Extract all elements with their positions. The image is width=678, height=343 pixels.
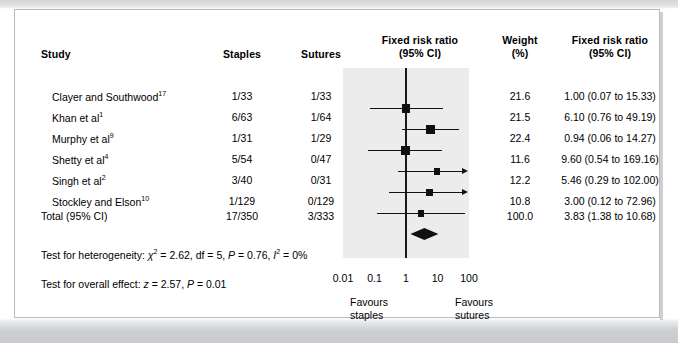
row-study-name: Clayer and Southwood17 [52,90,166,103]
row-weight: 22.4 [494,132,546,144]
row-study-name: Stockley and Elson10 [52,195,149,208]
row-sutures: 1/33 [290,90,352,102]
row-sutures: 0/31 [290,174,352,186]
row-risk-ratio: 5.46 (0.29 to 102.00) [551,174,669,186]
total-label: Total (95% CI) [41,210,108,222]
row-weight: 11.6 [494,153,546,165]
forest-plot-figure: Study Staples Sutures Fixed risk ratio (… [0,0,678,343]
reference-superscript: 10 [141,195,149,202]
favours-left-line1: Favours [350,296,388,309]
effect-marker [434,168,441,175]
row-risk-ratio: 3.00 (0.12 to 72.96) [551,195,669,207]
column-header-study: Study [41,48,71,60]
confidence-interval-line [398,171,462,172]
reference-superscript: 2 [102,174,106,181]
favours-right-line1: Favours [455,296,493,309]
null-effect-axis [405,68,407,258]
total-sutures: 3/333 [290,210,352,222]
total-risk-ratio: 3.83 (1.38 to 10.68) [551,210,669,222]
row-staples: 3/40 [211,174,273,186]
column-header-sutures: Sutures [290,48,352,60]
effect-marker [418,210,424,216]
reference-superscript: 17 [158,90,166,97]
row-staples: 1/129 [211,195,273,207]
axis-tick-100: 100 [449,272,489,284]
favours-sutures-label: Favours sutures [455,296,493,322]
effect-marker [426,189,433,196]
column-header-fixed-risk-ratio: Fixed risk ratio (95% CI) [551,34,669,59]
fixed-header-line1: Fixed risk ratio [551,34,669,47]
row-risk-ratio: 9.60 (0.54 to 169.16) [551,153,669,165]
weight-header-line2: (%) [494,47,546,60]
ci-arrow-icon [462,189,468,195]
plot-header-line2: (95% CI) [356,47,484,60]
effect-marker [401,146,410,155]
effect-marker [426,125,435,134]
plot-band [343,68,469,258]
row-sutures: 0/129 [290,195,352,207]
row-risk-ratio: 0.94 (0.06 to 14.27) [551,132,669,144]
column-header-staples: Staples [211,48,273,60]
row-staples: 1/33 [211,90,273,102]
row-weight: 12.2 [494,174,546,186]
row-staples: 5/54 [211,153,273,165]
row-weight: 10.8 [494,195,546,207]
row-sutures: 0/47 [290,153,352,165]
reference-superscript: 4 [105,153,109,160]
heterogeneity-test: Test for heterogeneity: χ2 = 2.62, df = … [41,248,307,261]
overall-effect-test: Test for overall effect: z = 2.57, P = 0… [41,278,226,290]
row-risk-ratio: 6.10 (0.76 to 49.19) [551,111,669,123]
row-study-name: Singh et al2 [52,174,106,187]
reference-superscript: 1 [99,111,103,118]
row-staples: 6/63 [211,111,273,123]
column-header-plot: Fixed risk ratio (95% CI) [356,34,484,59]
row-sutures: 1/64 [290,111,352,123]
weight-header-line1: Weight [494,34,546,47]
fixed-header-line2: (95% CI) [551,47,669,60]
row-weight: 21.6 [494,90,546,102]
row-study-name: Shetty et al4 [52,153,108,166]
row-weight: 21.5 [494,111,546,123]
row-sutures: 1/29 [290,132,352,144]
row-study-name: Khan et al1 [52,111,103,124]
ci-arrow-icon [462,168,468,174]
favours-staples-label: Favours staples [350,296,388,322]
total-staples: 17/350 [211,210,273,222]
column-header-weight: Weight (%) [494,34,546,59]
summary-diamond [410,228,438,240]
effect-marker [402,104,411,113]
favours-right-line2: sutures [455,309,493,322]
reference-superscript: 9 [110,132,114,139]
row-staples: 1/31 [211,132,273,144]
plot-header-line1: Fixed risk ratio [356,34,484,47]
row-study-name: Murphy et al9 [52,132,114,145]
favours-left-line2: staples [350,309,388,322]
total-weight: 100.0 [494,210,546,222]
row-risk-ratio: 1.00 (0.07 to 15.33) [551,90,669,102]
figure-card: Study Staples Sutures Fixed risk ratio (… [14,9,660,318]
